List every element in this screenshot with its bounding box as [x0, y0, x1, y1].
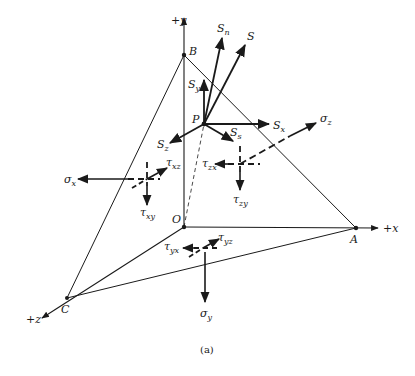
label-Sx: Sx	[273, 119, 286, 134]
label-S: S	[247, 30, 255, 43]
vector-Sn	[204, 38, 222, 124]
label-tau-zy: τzy	[233, 193, 248, 208]
label-tau-yx: τyx	[164, 240, 180, 255]
stress-tetrahedron-diagram: +y +x +z B A C O P Sn S Sy Sx Sz Ss σx τ…	[0, 0, 415, 376]
label-sigma-y: σy	[200, 307, 213, 322]
x-axis	[184, 227, 378, 228]
vertex-A	[354, 226, 358, 230]
label-tau-xz: τxz	[166, 156, 182, 171]
vector-Ss	[204, 124, 233, 141]
label-x-axis: +x	[383, 222, 399, 235]
edge-OP-dashed	[184, 124, 204, 227]
label-Sy: Sy	[188, 78, 201, 93]
edge-CA	[67, 228, 356, 298]
label-sigma-z: σz	[320, 112, 333, 127]
arrow-sigma-z	[290, 123, 316, 136]
label-tau-zx: τzx	[202, 157, 217, 172]
edge-BC	[67, 55, 184, 298]
label-A: A	[349, 233, 358, 246]
vertex-C	[65, 296, 69, 300]
vector-S	[204, 45, 245, 124]
label-Sn: Sn	[217, 22, 230, 37]
arrow-tau-yz	[203, 239, 219, 248]
label-z-axis: +z	[26, 313, 41, 326]
y-face-diagonal-dash	[189, 248, 203, 257]
label-B: B	[188, 45, 197, 58]
label-Ss: Ss	[230, 126, 242, 141]
label-O: O	[172, 213, 181, 226]
label-sigma-x: σx	[64, 173, 77, 188]
labels: +y +x +z B A C O P Sn S Sy Sx Sz Ss σx τ…	[26, 14, 399, 355]
label-Sz: Sz	[157, 138, 170, 153]
vertex-O	[182, 225, 186, 229]
label-P: P	[191, 113, 200, 126]
vector-Sz	[170, 124, 204, 143]
edge-BA	[184, 55, 356, 228]
figure-caption: (a)	[200, 344, 214, 355]
y-face-stresses	[183, 239, 219, 302]
arrow-tau-xz	[147, 168, 167, 179]
label-C: C	[61, 303, 70, 316]
vertex-B	[182, 53, 186, 57]
label-y-axis: +y	[171, 14, 187, 27]
sigma-z-dashed-leader	[240, 136, 290, 164]
label-tau-xy: τxy	[140, 206, 156, 221]
label-tau-yz: τyz	[218, 231, 234, 246]
x-face-diagonal-dash	[132, 179, 147, 188]
